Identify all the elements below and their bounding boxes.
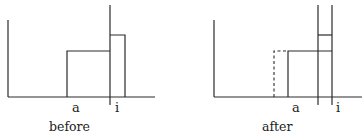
after-label-a: a bbox=[292, 100, 300, 115]
before-bar-i bbox=[110, 35, 125, 97]
after-panel: a i after bbox=[214, 5, 362, 134]
after-bar-a bbox=[288, 51, 332, 97]
after-label-i: i bbox=[336, 100, 340, 115]
after-caption: after bbox=[262, 119, 292, 134]
after-old-bar-outline-dashed bbox=[274, 51, 288, 97]
before-label-i: i bbox=[115, 100, 119, 115]
before-label-a: a bbox=[72, 100, 80, 115]
histogram-diagram: a i before a i after bbox=[0, 0, 362, 137]
before-caption: before bbox=[49, 119, 90, 134]
before-bar-a bbox=[67, 51, 110, 97]
before-panel: a i before bbox=[8, 5, 155, 134]
